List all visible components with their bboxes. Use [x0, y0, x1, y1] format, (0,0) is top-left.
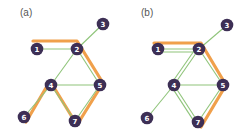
double-edge-4-7 [171, 87, 195, 124]
double-edge-2-4 [172, 47, 197, 83]
panel-b-edges [147, 25, 227, 122]
node-2: 2 [71, 43, 84, 56]
edge-2-4 [174, 49, 199, 85]
panel-a: 1234567 (a) [18, 7, 110, 127]
node-1: 1 [31, 43, 44, 56]
node-label: 4 [172, 82, 177, 90]
edge-4-6 [147, 85, 174, 118]
edge-5-7 [75, 85, 100, 121]
edge-4-7 [51, 85, 75, 121]
node-label: 5 [98, 82, 103, 90]
node-label: 1 [35, 46, 40, 54]
node-label: 1 [156, 46, 161, 54]
edge-5-7 [198, 85, 223, 122]
node-7: 7 [69, 115, 82, 128]
panel-b: 1234567 (b) [141, 7, 234, 128]
node-5: 5 [217, 79, 230, 92]
panel-b-label: (b) [141, 7, 153, 18]
node-label: 7 [73, 118, 78, 126]
node-label: 2 [197, 46, 202, 54]
node-label: 2 [75, 46, 80, 54]
edge-4-7 [174, 85, 198, 122]
panel-a-label: (a) [20, 7, 32, 18]
node-4: 4 [45, 79, 58, 92]
node-label: 3 [101, 21, 106, 29]
node-label: 4 [49, 82, 54, 90]
node-2: 2 [193, 43, 206, 56]
node-4: 4 [168, 79, 181, 92]
node-7: 7 [192, 116, 205, 129]
node-6: 6 [141, 112, 154, 125]
node-label: 3 [225, 22, 230, 30]
edge-2-5 [77, 49, 100, 85]
node-label: 6 [22, 114, 27, 122]
node-6: 6 [18, 111, 31, 124]
node-label: 6 [145, 115, 150, 123]
node-label: 5 [221, 82, 226, 90]
node-5: 5 [94, 79, 107, 92]
node-1: 1 [152, 43, 165, 56]
node-3: 3 [221, 19, 234, 32]
node-label: 7 [196, 119, 201, 127]
edge-2-4 [51, 49, 77, 85]
edge-2-5 [199, 49, 223, 85]
graph-diagram: 1234567 (a) 1234567 (b) [0, 0, 245, 138]
node-3: 3 [97, 18, 110, 31]
